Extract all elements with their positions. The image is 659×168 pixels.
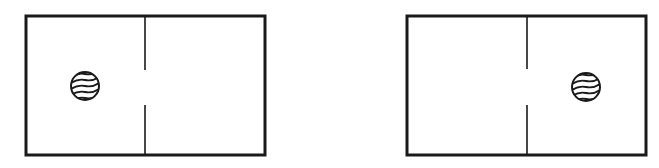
two-chamber-diagram <box>0 0 659 168</box>
left-panel <box>26 16 265 155</box>
striped-ball-icon <box>67 56 103 116</box>
striped-ball-icon <box>568 57 604 117</box>
diagram-canvas <box>0 0 659 168</box>
right-panel <box>407 16 646 155</box>
